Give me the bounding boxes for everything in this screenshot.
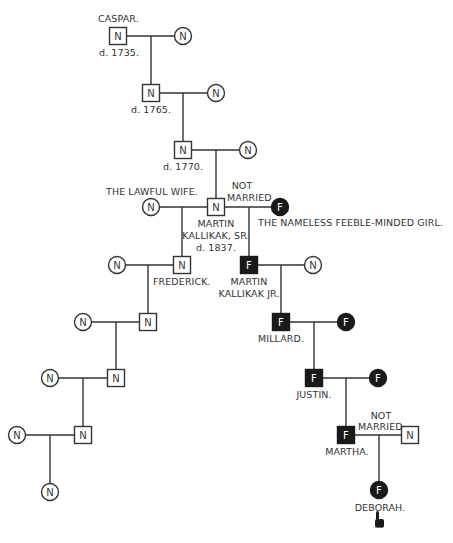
label-not-married-1-line1: NOT — [232, 180, 253, 191]
person-martha: F — [338, 427, 355, 444]
svg-text:N: N — [406, 430, 413, 441]
svg-text:N: N — [79, 317, 86, 328]
person-caspar-wife: N — [175, 28, 192, 45]
svg-text:N: N — [178, 260, 185, 271]
svg-text:N: N — [244, 145, 251, 156]
label-not-married-1-line2: MARRIED — [227, 192, 272, 203]
relationship-lines — [17, 36, 410, 492]
person-martin-jr: F — [241, 257, 258, 274]
person-lawful-gen4: N — [75, 427, 92, 444]
label-justin: JUSTIN. — [296, 389, 331, 400]
person-frederick: N — [174, 257, 191, 274]
svg-text:N: N — [46, 487, 53, 498]
person-deborah: F — [371, 482, 388, 499]
svg-text:N: N — [147, 202, 154, 213]
svg-text:N: N — [309, 260, 316, 271]
person-millard: F — [273, 314, 290, 331]
person-lawful-wife: N — [143, 199, 160, 216]
svg-text:N: N — [79, 430, 86, 441]
person-martin-sr: N — [208, 199, 225, 216]
svg-text:N: N — [113, 260, 120, 271]
person-nameless-girl: F — [272, 199, 289, 216]
svg-text:F: F — [376, 485, 382, 496]
label-not-married-2-line2: MARRIED — [358, 421, 403, 432]
svg-text:N: N — [212, 88, 219, 99]
person-lawful-gen2: N — [140, 314, 157, 331]
svg-text:F: F — [343, 317, 349, 328]
svg-text:F: F — [375, 373, 381, 384]
label-lawful-wife: THE LAWFUL WIFE. — [106, 186, 198, 197]
person-gen3: N — [175, 142, 192, 159]
person-frederick-wife: N — [109, 257, 126, 274]
label-martha: MARTHA. — [325, 446, 369, 457]
family-members: NNNNNNNNFNNFNNNFFNNFFNNFNNF — [9, 28, 419, 501]
svg-text:N: N — [147, 88, 154, 99]
svg-text:N: N — [212, 202, 219, 213]
label-martin-sr-death: d. 1837. — [196, 242, 236, 253]
person-justin-wife: F — [370, 370, 387, 387]
label-gen2-death: d. 1765. — [131, 104, 171, 115]
svg-text:N: N — [46, 373, 53, 384]
label-gen3-death: d. 1770. — [163, 161, 203, 172]
svg-text:F: F — [343, 430, 349, 441]
person-millard-wife: F — [338, 314, 355, 331]
label-martin-sr-surname: KALLIKAK, SR. — [182, 230, 249, 241]
person-lawful-gen4-wife: N — [9, 427, 26, 444]
svg-text:N: N — [112, 373, 119, 384]
person-lawful-gen3-wife: N — [42, 370, 59, 387]
label-martin-sr-name: MARTIN — [198, 218, 235, 229]
person-lawful-gen5: N — [42, 484, 59, 501]
svg-text:N: N — [114, 31, 121, 42]
svg-text:N: N — [179, 31, 186, 42]
label-deborah: DEBORAH. — [355, 502, 406, 513]
person-lawful-gen3: N — [108, 370, 125, 387]
svg-text:F: F — [311, 373, 317, 384]
svg-text:F: F — [246, 260, 252, 271]
svg-text:N: N — [144, 317, 151, 328]
label-caspar: CASPAR. — [98, 13, 139, 24]
person-martin-jr-wife: N — [305, 257, 322, 274]
person-gen3-wife: N — [240, 142, 257, 159]
label-nameless-girl: THE NAMELESS FEEBLE-MINDED GIRL. — [258, 217, 443, 228]
person-gen2-wife: N — [208, 85, 225, 102]
kallikak-pedigree-chart: NNNNNNNNFNNFNNNFFNNFFNNFNNF — [0, 0, 453, 543]
label-martin-jr-name: MARTIN — [231, 276, 268, 287]
person-lawful-gen2-wife: N — [75, 314, 92, 331]
label-frederick: FREDERICK. — [153, 276, 211, 287]
label-martin-jr-surname: KALLIKAK JR. — [218, 288, 279, 299]
pointing-hand-icon — [374, 511, 384, 528]
svg-text:N: N — [179, 145, 186, 156]
person-justin: F — [306, 370, 323, 387]
label-not-married-2-line1: NOT — [371, 410, 392, 421]
svg-text:F: F — [277, 202, 283, 213]
svg-text:F: F — [278, 317, 284, 328]
person-caspar: N — [110, 28, 127, 45]
person-gen2: N — [143, 85, 160, 102]
svg-text:N: N — [13, 430, 20, 441]
label-millard: MILLARD. — [258, 333, 304, 344]
label-caspar-death: d. 1735. — [99, 47, 139, 58]
person-martha-partner: N — [402, 427, 419, 444]
